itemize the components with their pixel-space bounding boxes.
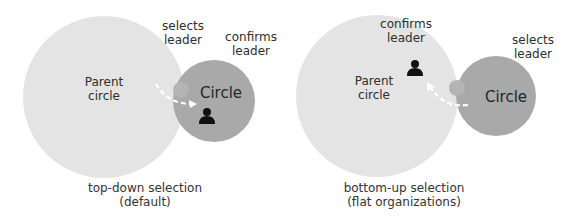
circle-label: Circle: [485, 89, 527, 105]
parent-circle-label: Parent circle: [85, 75, 123, 103]
caption-top-down: top-down selection (default): [88, 181, 202, 209]
annotation-selects-leader: selects leader: [162, 19, 204, 47]
parent-circle-label: Parent circle: [355, 74, 393, 102]
bottom-up-diagram: confirms leader selects leader Parent ci…: [286, 0, 572, 223]
circle-link-nub: [173, 82, 189, 98]
annotation-confirms-leader: confirms leader: [380, 17, 432, 45]
annotation-confirms-leader: confirms leader: [225, 30, 277, 58]
top-down-diagram: selects leader confirms leader Parent ci…: [0, 0, 286, 223]
circle-label: Circle: [200, 85, 242, 101]
caption-bottom-up: bottom-up selection (flat organizations): [344, 181, 465, 209]
annotation-selects-leader: selects leader: [512, 33, 554, 61]
circle-link-nub: [449, 80, 465, 96]
